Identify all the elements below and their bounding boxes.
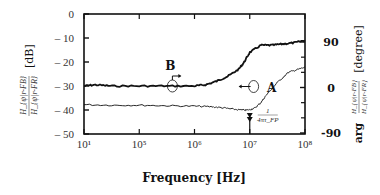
annotation-B: B [165,59,175,73]
freq-marker-numerator: 1 [266,107,270,115]
x-tick-label: 10⁷ [242,138,257,150]
data-series [84,40,305,110]
left-tick-label: – 10 [54,32,75,44]
x-tick-label: 10⁶ [187,138,202,150]
left-label-denominator: H_{ψ|r-FR} [30,75,39,116]
right-label-numerator: H_{ψ|r-FB} [350,80,358,115]
double-arrow-down-icon [247,113,253,122]
left-tick-label: – 20 [54,56,75,68]
x-tick-label: 10⁵ [132,138,147,150]
annotations: BA14πτ_FP [165,59,279,134]
right-tick-label: -90 [321,127,341,140]
freq-marker-denominator: 4πτ_FP [257,116,279,124]
left-tick-label: – 40 [54,104,75,116]
x-axis-label: Frequency [Hz] [142,171,246,185]
right-tick-label: 90 [323,36,339,49]
right-label-denominator: H_{ψ|r-FR} [360,80,368,115]
left-tick-label: – 30 [54,80,75,92]
x-tick-label: 10⁸ [298,138,313,150]
left-y-axis-label: H_{ψ|r-FB} H_{ψ|r-FR} [dB] [19,44,39,116]
left-tick-label: – 50 [54,128,75,140]
right-y-axis: 900-90 [300,36,341,140]
chart-canvas: 0– 10– 20– 30– 40– 50 900-90 10¹10⁵10⁶10… [0,0,380,195]
right-tick-label: 0 [327,82,335,95]
right-y-axis-label: arg H_{ψ|r-FB} H_{ψ|r-FR} [degree] [350,25,368,143]
left-label-unit: [dB] [23,44,36,68]
x-tick-label: 10¹ [77,138,91,150]
left-label-numerator: H_{ψ|r-FB} [19,75,28,116]
right-label-unit: [degree] [352,25,365,72]
annotation-A: A [266,81,277,95]
right-label-arg: arg [352,122,365,143]
left-tick-label: 0 [69,8,75,20]
